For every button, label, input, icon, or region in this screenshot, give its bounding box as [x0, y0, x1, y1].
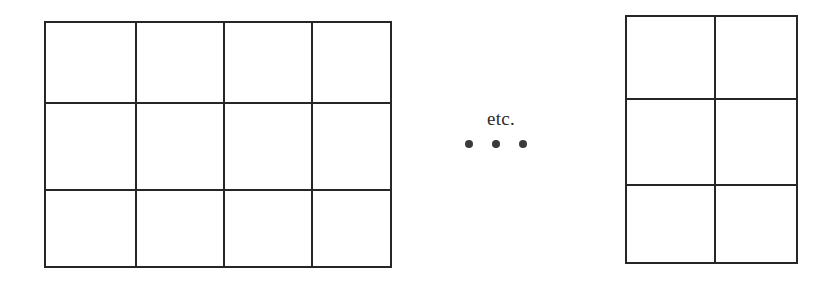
- grid-cell: [313, 104, 390, 189]
- ellipsis-dot-icon: [465, 140, 473, 148]
- ellipsis-dot-icon: [492, 140, 500, 148]
- grid-cell: [46, 23, 135, 102]
- left-grid: [44, 21, 392, 268]
- grid-cell: [46, 104, 135, 189]
- grid-cell: [46, 191, 135, 266]
- grid-cell: [313, 23, 390, 102]
- grid-cell: [225, 191, 311, 266]
- ellipsis-dots: [465, 140, 527, 148]
- ellipsis-dot-icon: [519, 140, 527, 148]
- grid-cell: [313, 191, 390, 266]
- grid-cell: [225, 104, 311, 189]
- grid-cell: [716, 186, 796, 262]
- grid-cell: [627, 17, 714, 98]
- ellipsis-annotation: etc.: [455, 108, 535, 160]
- grid-cell: [225, 23, 311, 102]
- etc-label: etc.: [455, 108, 535, 130]
- grid-cell: [137, 191, 223, 266]
- right-grid: [625, 15, 798, 264]
- grid-cell: [137, 104, 223, 189]
- grid-cell: [716, 17, 796, 98]
- grid-cell: [137, 23, 223, 102]
- grid-cell: [627, 186, 714, 262]
- grid-cell: [627, 100, 714, 184]
- figure-canvas: etc.: [0, 0, 837, 290]
- grid-cell: [716, 100, 796, 184]
